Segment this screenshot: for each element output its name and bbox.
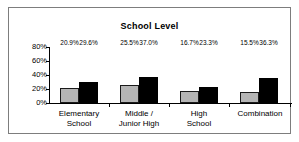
bar-wrap-elementary-b: 29.6%: [79, 47, 98, 103]
x-axis-label-line1: Elementary: [49, 109, 109, 119]
y-tick-label-40: 40%: [19, 71, 47, 79]
bar-label-elementary-b: 29.6%: [79, 39, 97, 46]
bar-wrap-combination-a: 15.5%: [240, 47, 259, 103]
x-axis-line: [49, 103, 292, 104]
bar-wrap-elementary-a: 20.9%: [60, 47, 79, 103]
bar-group-elementary-school: 20.9% 29.6%: [49, 47, 109, 103]
x-axis-label-line1: Middle /: [109, 109, 169, 119]
bar-group-combination: 15.5% 36.3%: [229, 47, 289, 103]
bar-wrap-high-b: 23.3%: [199, 47, 218, 103]
x-axis-label-line2: School: [49, 119, 109, 129]
x-tick-separator-2: [169, 103, 170, 107]
bar-wrap-middle-b: 37.0%: [139, 47, 158, 103]
bar-group-middle-junior-high: 25.5% 37.0%: [109, 47, 169, 103]
x-axis-label-elementary-school: Elementary School: [49, 109, 109, 128]
bar-high-b: [199, 87, 218, 103]
bar-label-combination-b: 36.3%: [259, 39, 277, 46]
bar-elementary-a: [60, 88, 79, 103]
y-tick-label-0: 0%: [19, 99, 47, 107]
x-axis-label-combination: Combination: [229, 109, 291, 119]
bar-label-middle-b: 37.0%: [139, 39, 157, 46]
x-axis-label-line1: High: [169, 109, 229, 119]
x-tick-separator-1: [109, 103, 110, 107]
y-axis-labels: 80% 60% 40% 20% 0%: [19, 43, 47, 107]
chart-frame: School Level 80% 60% 40% 20% 0% 20.9% 29…: [8, 7, 291, 134]
x-axis-label-middle-junior-high: Middle / Junior High: [109, 109, 169, 128]
bar-high-a: [180, 91, 199, 103]
bar-label-middle-a: 25.5%: [120, 39, 138, 46]
x-axis-label-high-school: High School: [169, 109, 229, 128]
bar-wrap-high-a: 16.7%: [180, 47, 199, 103]
y-tick-label-20: 20%: [19, 85, 47, 93]
bar-middle-b: [139, 77, 158, 103]
bar-combination-a: [240, 92, 259, 103]
bar-label-elementary-a: 20.9%: [60, 39, 78, 46]
bar-elementary-b: [79, 82, 98, 103]
bar-group-high-school: 16.7% 23.3%: [169, 47, 229, 103]
x-axis-label-line2: Junior High: [109, 119, 169, 129]
bar-combination-b: [259, 78, 278, 103]
x-axis-label-line2: School: [169, 119, 229, 129]
bar-wrap-combination-b: 36.3%: [259, 47, 278, 103]
bar-label-high-a: 16.7%: [180, 39, 198, 46]
y-tick-label-60: 60%: [19, 57, 47, 65]
x-axis-label-line1: Combination: [229, 109, 291, 119]
bar-label-combination-a: 15.5%: [240, 39, 258, 46]
bar-middle-a: [120, 85, 139, 103]
bar-label-high-b: 23.3%: [199, 39, 217, 46]
plot-area: 20.9% 29.6% 25.5% 37.0%: [49, 47, 288, 103]
x-tick-separator-4: [290, 103, 291, 107]
chart-screenshot: School Level 80% 60% 40% 20% 0% 20.9% 29…: [0, 0, 299, 142]
chart-title: School Level: [9, 21, 290, 31]
x-tick-separator-3: [229, 103, 230, 107]
bar-wrap-middle-a: 25.5%: [120, 47, 139, 103]
y-tick-label-80: 80%: [19, 43, 47, 51]
